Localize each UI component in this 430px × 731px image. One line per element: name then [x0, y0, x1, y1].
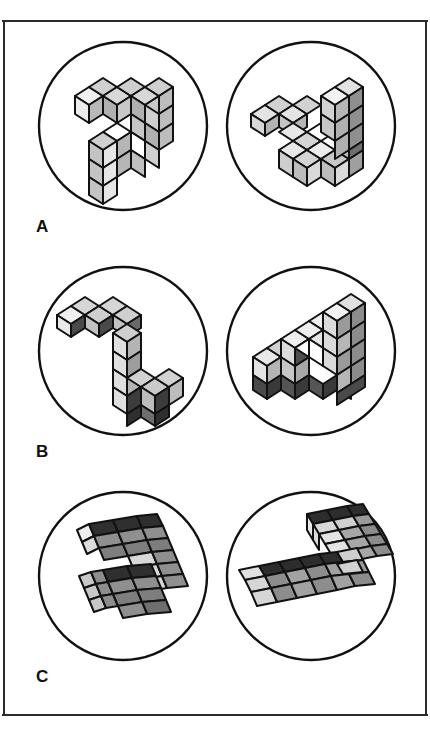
figure-row-a: A: [0, 22, 430, 247]
row-label-c: C: [36, 668, 49, 685]
item-c-right-circle[interactable]: [221, 486, 401, 666]
figure-row-b: B: [0, 247, 430, 472]
row-label-a: A: [36, 218, 49, 235]
item-a-left-shape: [33, 36, 213, 216]
item-b-left-shape: [33, 261, 213, 441]
item-a-right-shape: [221, 36, 401, 216]
item-b-right-shape: [221, 261, 401, 441]
row-label-b: B: [36, 443, 49, 460]
item-b-left-circle[interactable]: [33, 261, 213, 441]
item-a-right-circle[interactable]: [221, 36, 401, 216]
item-c-left-shape: [33, 486, 213, 666]
figure-row-c: C: [0, 472, 430, 697]
item-c-left-circle[interactable]: [33, 486, 213, 666]
item-c-right-shape: [221, 486, 401, 666]
item-b-right-circle[interactable]: [221, 261, 401, 441]
panel-border-bottom: [2, 714, 428, 716]
item-a-left-circle[interactable]: [33, 36, 213, 216]
figure-panel: A: [0, 0, 430, 731]
